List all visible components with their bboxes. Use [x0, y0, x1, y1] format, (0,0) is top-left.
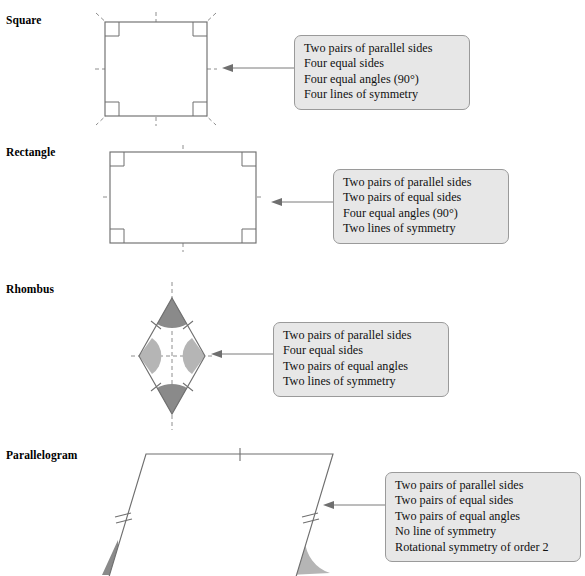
callout-parallelogram-line-2: Two pairs of equal sides [395, 493, 571, 508]
callout-parallelogram-line-3: Two pairs of equal angles [395, 509, 571, 524]
callout-parallelogram: Two pairs of parallel sides Two pairs of… [385, 472, 581, 562]
callout-parallelogram-line-5: Rotational symmetry of order 2 [395, 540, 571, 555]
callout-parallelogram-line-4: No line of symmetry [395, 524, 571, 539]
parallelogram-callout-arrow-head [323, 501, 334, 509]
parallelogram-outline [102, 454, 333, 576]
diagram-canvas: Square Two pairs of parallel sides Four … [0, 0, 585, 576]
callout-parallelogram-line-1: Two pairs of parallel sides [395, 478, 571, 493]
